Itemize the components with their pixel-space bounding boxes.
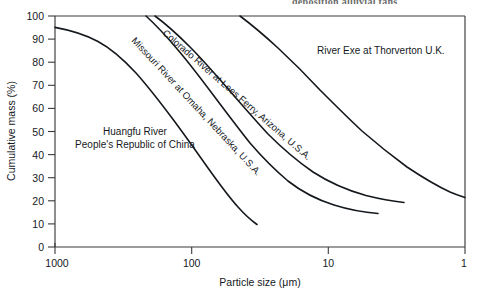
y-tick-label-20: 20 (32, 195, 44, 207)
y-axis-title: Cumulative mass (%) (5, 81, 17, 181)
label-huangfu-line2: People's Republic of China (75, 139, 195, 150)
y-tick-label-70: 70 (32, 79, 44, 91)
y-tick-label-60: 60 (32, 102, 44, 114)
y-tick-label-40: 40 (32, 149, 44, 161)
y-tick-label-80: 80 (32, 56, 44, 68)
y-tick-label-90: 90 (32, 33, 44, 45)
y-axis-tick-labels: 100 90 80 70 60 50 40 30 20 10 0 (26, 10, 44, 253)
y-tick-label-100: 100 (26, 10, 44, 22)
x-tick-label-1000: 1000 (45, 257, 69, 269)
particle-size-cumulative-mass-chart: 100 90 80 70 60 50 40 30 20 10 0 1000 10… (0, 0, 489, 296)
y-axis-ticks (48, 16, 55, 247)
x-axis-title: Particle size (μm) (219, 276, 300, 288)
label-huangfu-line1: Huangfu River (103, 126, 168, 137)
y-tick-label-10: 10 (32, 218, 44, 230)
figure-container: deposition alluvial fans 100 90 (0, 0, 489, 296)
x-tick-label-10: 10 (322, 257, 334, 269)
y-tick-label-30: 30 (32, 172, 44, 184)
curve-river-exe (240, 16, 465, 198)
x-axis-tick-labels: 1000 100 10 1 (45, 257, 467, 269)
y-tick-label-0: 0 (38, 241, 44, 253)
label-river-exe: River Exe at Thorverton U.K. (317, 45, 445, 56)
x-axis-ticks (55, 243, 465, 254)
y-tick-label-50: 50 (32, 126, 44, 138)
x-tick-label-1: 1 (461, 257, 467, 269)
x-tick-label-100: 100 (183, 257, 201, 269)
